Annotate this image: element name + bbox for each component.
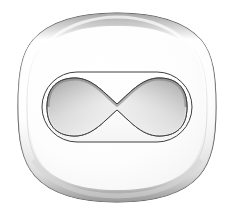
cell-illustration	[0, 0, 235, 215]
illustration-canvas	[0, 0, 235, 215]
